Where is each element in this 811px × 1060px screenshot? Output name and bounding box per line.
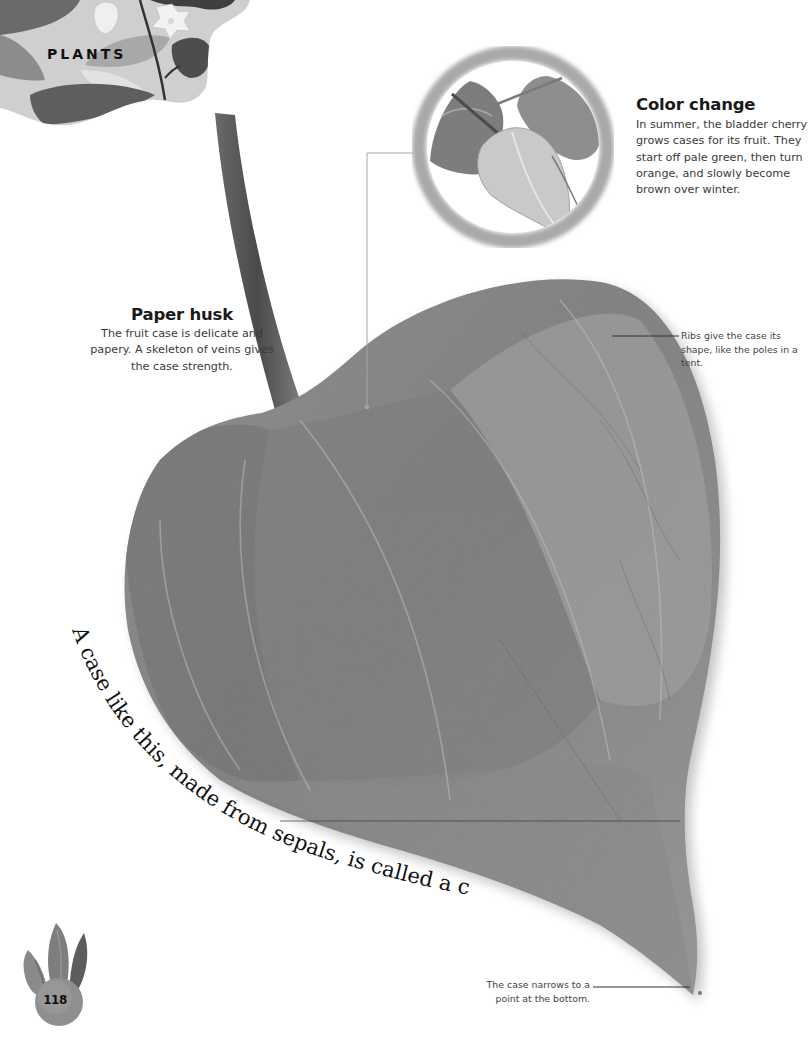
paper-husk-heading: Paper husk (82, 305, 282, 324)
color-change-block: Color change In summer, the bladder cher… (636, 95, 811, 198)
narrow-point-annotation: The case narrows to a point at the botto… (470, 978, 590, 1005)
paper-husk-block: Paper husk The fruit case is delicate an… (82, 305, 282, 375)
ribs-annotation: Ribs give the case its shape, like the p… (681, 329, 806, 370)
paper-husk-body: The fruit case is delicate and papery. A… (82, 326, 282, 375)
page-number-badge (10, 915, 100, 1035)
inset-photo-circle (412, 46, 614, 248)
page-number: 118 (38, 993, 72, 1007)
color-change-heading: Color change (636, 95, 811, 114)
flame-leaves-icon (10, 915, 100, 1035)
color-change-body: In summer, the bladder cherry grows case… (636, 117, 811, 198)
